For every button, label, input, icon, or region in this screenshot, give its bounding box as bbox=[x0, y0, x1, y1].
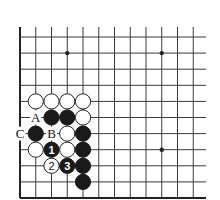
stone-circle bbox=[44, 110, 59, 125]
stone-circle bbox=[44, 94, 59, 109]
black-stone bbox=[75, 174, 90, 189]
star-point bbox=[160, 51, 164, 55]
stone-circle bbox=[28, 126, 43, 141]
move-number: 2 bbox=[48, 160, 54, 172]
point-label-a: A bbox=[30, 110, 41, 125]
stone-circle bbox=[75, 158, 90, 173]
white-stone bbox=[60, 94, 75, 109]
star-point bbox=[65, 51, 69, 55]
stone-circle bbox=[28, 94, 43, 109]
point-label-b: B bbox=[46, 126, 57, 141]
black-stone bbox=[75, 126, 90, 141]
white-stone bbox=[60, 142, 75, 157]
star-point bbox=[160, 148, 164, 152]
white-stone bbox=[28, 142, 43, 157]
stone-circle bbox=[75, 126, 90, 141]
black-stone bbox=[60, 110, 75, 125]
stone-circle bbox=[28, 142, 43, 157]
label-text: C bbox=[16, 126, 25, 141]
black-stone-3: 3 bbox=[60, 158, 75, 173]
white-stone bbox=[75, 110, 90, 125]
stones-layer: 123 bbox=[28, 94, 90, 190]
stone-circle bbox=[75, 174, 90, 189]
black-stone-1: 1 bbox=[44, 142, 59, 157]
stone-circle bbox=[60, 110, 75, 125]
white-stone-2: 2 bbox=[44, 158, 59, 173]
black-stone bbox=[28, 126, 43, 141]
white-stone bbox=[60, 126, 75, 141]
black-stone bbox=[75, 142, 90, 157]
black-stone bbox=[44, 110, 59, 125]
white-stone bbox=[44, 94, 59, 109]
move-number: 3 bbox=[64, 160, 70, 172]
stone-circle bbox=[60, 142, 75, 157]
label-text: B bbox=[47, 126, 56, 141]
move-number: 1 bbox=[48, 144, 54, 156]
go-board: 123 ABC bbox=[0, 0, 220, 200]
white-stone bbox=[75, 94, 90, 109]
stone-circle bbox=[75, 110, 90, 125]
label-text: A bbox=[31, 110, 41, 125]
point-label-c: C bbox=[15, 126, 26, 141]
white-stone bbox=[28, 94, 43, 109]
stone-circle bbox=[60, 94, 75, 109]
black-stone bbox=[75, 158, 90, 173]
stone-circle bbox=[60, 126, 75, 141]
stone-circle bbox=[75, 142, 90, 157]
stone-circle bbox=[75, 94, 90, 109]
